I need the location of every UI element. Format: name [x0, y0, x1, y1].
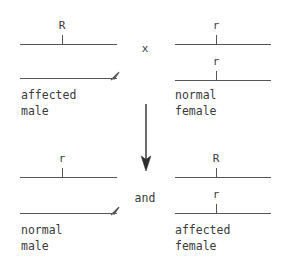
allele-label: r	[209, 56, 223, 67]
genetics-cross-diagram: R affected male r r nor	[0, 0, 294, 264]
parent-male-phenotype-line1: affected	[21, 88, 76, 102]
parent-female-phenotype-line2: female	[175, 104, 217, 118]
allele-tick	[216, 168, 217, 177]
parent-female-phenotype-line1: normal	[175, 88, 217, 102]
chromosome-bar	[20, 177, 117, 178]
offspring-male-phenotype-line1: normal	[21, 223, 63, 237]
chromosome-bar	[175, 44, 271, 45]
allele-tick	[216, 35, 217, 44]
allele-label: R	[55, 20, 69, 31]
offspring-female-phenotype-line1: affected	[175, 223, 230, 237]
chromosome-bar	[175, 177, 271, 178]
allele-label: r	[55, 153, 69, 164]
chromosome-bar	[175, 80, 271, 81]
chromosome-bar	[20, 213, 117, 214]
offspring-female-group: R r affected female	[147, 132, 294, 264]
y-chromosome-arrowhead-icon	[110, 71, 119, 80]
cross-operator-symbol: x	[138, 43, 152, 54]
allele-tick	[62, 168, 63, 177]
chromosome-bar	[20, 78, 117, 79]
offspring-male-group: r normal male	[0, 132, 147, 264]
allele-tick	[62, 35, 63, 44]
chromosome-bar	[175, 213, 271, 214]
allele-label: R	[209, 153, 223, 164]
allele-tick	[216, 71, 217, 80]
offspring-female-phenotype-line2: female	[175, 239, 217, 253]
allele-tick	[216, 204, 217, 213]
parent-male-phenotype-line2: male	[21, 104, 49, 118]
y-chromosome-arrowhead-icon	[110, 206, 119, 215]
offspring-male-phenotype-line2: male	[21, 239, 49, 253]
allele-label: r	[209, 189, 223, 200]
chromosome-bar	[20, 44, 117, 45]
parent-female-group: r r normal female	[147, 0, 294, 132]
allele-label: r	[209, 20, 223, 31]
parent-male-group: R affected male	[0, 0, 147, 132]
